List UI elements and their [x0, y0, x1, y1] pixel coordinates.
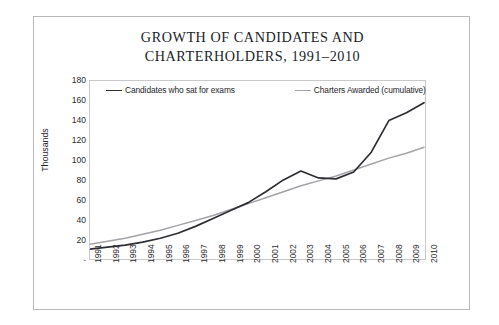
chart-svg [90, 81, 425, 259]
x-axis-tick-label: 2007 [376, 244, 386, 263]
x-axis-tick-label: 1999 [235, 244, 245, 263]
x-axis-tick-labels: 1991199219931994199519961997199819992000… [89, 263, 426, 305]
chart-figure: GROWTH OF CANDIDATES AND CHARTERHOLDERS,… [33, 16, 470, 310]
legend-line-swatch-icon [106, 90, 122, 91]
x-axis-tick-label: 2009 [411, 244, 421, 263]
x-axis-tick-label: 1993 [128, 244, 138, 263]
y-axis-tick-label: 80 [76, 175, 86, 185]
x-axis-tick-label: 2004 [323, 244, 333, 263]
x-axis-tick-label: 2006 [358, 244, 368, 263]
chart-title: GROWTH OF CANDIDATES AND CHARTERHOLDERS,… [34, 28, 471, 66]
plot-area [89, 80, 426, 260]
legend-label-charters: Charters Awarded (cumulative) [314, 85, 426, 95]
y-axis-tick-label: 160 [72, 95, 86, 105]
chart-title-line-2: CHARTERHOLDERS, 1991–2010 [34, 47, 471, 66]
x-axis-tick-label: 2008 [394, 244, 404, 263]
x-axis-tick-label: 1994 [146, 244, 156, 263]
x-axis-tick-label: 1995 [164, 244, 174, 263]
legend-item-charters: Charters Awarded (cumulative) [295, 85, 426, 95]
x-axis-tick-label: 1998 [217, 244, 227, 263]
x-axis-tick-label: 2000 [252, 244, 262, 263]
y-axis-tick-label: 40 [76, 215, 86, 225]
legend-label-candidates: Candidates who sat for exams [125, 85, 235, 95]
y-axis-tick-label: 140 [72, 115, 86, 125]
chart-title-line-1: GROWTH OF CANDIDATES AND [141, 29, 364, 45]
x-axis-tick-label: 1996 [181, 244, 191, 263]
x-axis-tick-label: 1991 [93, 244, 103, 263]
x-axis-tick-label: 2010 [429, 244, 439, 263]
x-axis-tick-label: 2003 [305, 244, 315, 263]
series-line-charters-awarded [90, 147, 424, 244]
chart-legend: Candidates who sat for exams Charters Aw… [100, 83, 430, 97]
legend-item-candidates: Candidates who sat for exams [106, 85, 235, 95]
y-axis-tick-label: 60 [76, 195, 86, 205]
y-axis-tick-label: - [83, 255, 86, 265]
y-axis-tick-label: 100 [72, 155, 86, 165]
y-axis-tick-label: 180 [72, 75, 86, 85]
y-axis-tick-labels: -20406080100120140160180 [48, 80, 86, 260]
legend-line-swatch-icon [295, 90, 311, 91]
x-axis-tick-label: 2005 [341, 244, 351, 263]
x-axis-tick-label: 1997 [199, 244, 209, 263]
x-axis-tick-label: 1992 [111, 244, 121, 263]
series-line-candidates [90, 103, 424, 249]
y-axis-tick-label: 120 [72, 135, 86, 145]
y-axis-tick-label: 20 [76, 235, 86, 245]
x-axis-tick-label: 2001 [270, 244, 280, 263]
x-axis-tick-label: 2002 [288, 244, 298, 263]
